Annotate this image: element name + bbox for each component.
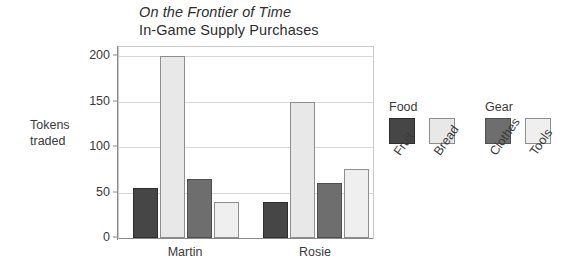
y-tick-label-0: 0	[103, 230, 110, 244]
y-axis-ticks: 050100150200	[0, 46, 118, 239]
legend-group-gear: GearClothesTools	[485, 100, 575, 210]
y-tick-label-200: 200	[89, 48, 110, 62]
gridline-100	[119, 147, 373, 148]
gridline-200	[119, 56, 373, 57]
chart-legend: FoodFruitBreadGearClothesTools	[389, 100, 583, 210]
bar-martin-bread	[160, 56, 185, 238]
legend-group-title-food: Food	[389, 100, 418, 114]
y-tick-label-100: 100	[89, 139, 110, 153]
bar-rosie-fruit	[263, 202, 288, 238]
bar-martin-clothes	[187, 179, 212, 238]
plot-frame	[118, 46, 374, 239]
title-block: On the Frontier of Time In-Game Supply P…	[139, 4, 319, 39]
bar-rosie-clothes	[317, 183, 342, 238]
chart-subtitle: In-Game Supply Purchases	[139, 22, 319, 40]
x-category-label-martin: Martin	[168, 245, 203, 259]
bar-martin-tools	[214, 202, 239, 238]
y-tick-label-150: 150	[89, 94, 110, 108]
bar-rosie-bread	[290, 102, 315, 238]
gridline-150	[119, 102, 373, 103]
legend-group-title-gear: Gear	[485, 100, 513, 114]
gridline-0	[119, 238, 373, 239]
x-category-label-rosie: Rosie	[299, 245, 331, 259]
bar-martin-fruit	[133, 188, 158, 238]
legend-group-food: FoodFruitBread	[389, 100, 479, 210]
plot-area	[119, 47, 373, 238]
chart-title: On the Frontier of Time	[139, 4, 319, 22]
bar-rosie-tools	[344, 169, 369, 238]
y-tick-label-50: 50	[96, 185, 110, 199]
